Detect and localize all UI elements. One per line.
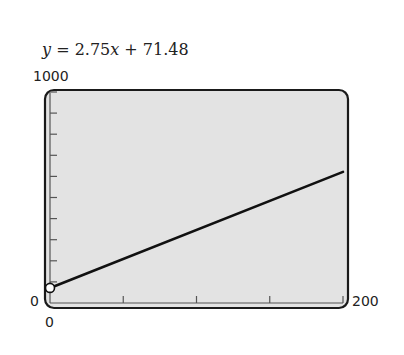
intercept-point	[46, 283, 55, 292]
plot-frame	[45, 90, 348, 308]
graph-window	[0, 0, 404, 355]
